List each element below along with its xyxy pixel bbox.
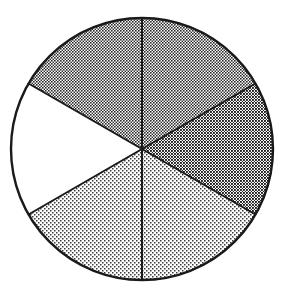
pie-chart xyxy=(0,0,293,295)
figure-canvas xyxy=(0,0,293,295)
